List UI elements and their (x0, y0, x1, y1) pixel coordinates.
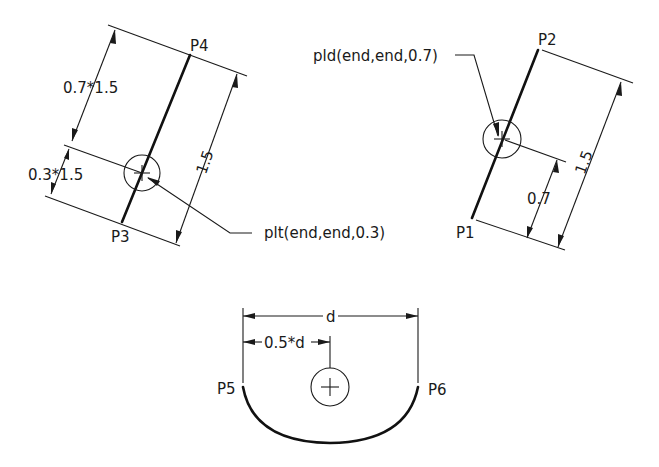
arrowhead (243, 339, 255, 345)
callout-leader (148, 178, 252, 233)
callout-text-pld: pld(end,end,0.7) (313, 47, 438, 65)
dim-label-total: 1.5 (193, 148, 218, 176)
bottom-diagram: P5 P6 d 0.5*d (217, 308, 447, 443)
arrowhead (527, 226, 533, 238)
arrowhead (318, 339, 330, 345)
arrowhead (616, 82, 622, 96)
dim-label-lower: 0.3*1.5 (28, 166, 83, 184)
callout-text-plt: plt(end,end,0.3) (264, 224, 385, 242)
dim-label-partial: 0.7 (527, 190, 551, 208)
dim-label-d: d (326, 308, 336, 326)
extension-line-top (108, 25, 247, 76)
dim-label-total: 1.5 (571, 148, 596, 177)
point-label-p1: P1 (456, 224, 475, 242)
point-label-p4: P4 (190, 37, 209, 55)
point-label-p5: P5 (217, 380, 236, 398)
arrowhead (406, 313, 418, 319)
point-label-p2: P2 (538, 31, 557, 49)
callout-leader (455, 55, 498, 136)
extension-line-top (542, 50, 633, 83)
right-diagram: P2 P1 1.5 0.7 pld(end,end,0.7) (313, 31, 633, 250)
arrowhead (558, 234, 564, 247)
arrowhead (176, 230, 182, 243)
cad-drawing-canvas: P4 P3 0.7*1.5 0.3*1.5 1.5 plt(end,end,0.… (0, 0, 659, 467)
point-label-p6: P6 (428, 381, 447, 399)
dim-label-upper: 0.7*1.5 (63, 79, 118, 97)
arrowhead (110, 30, 116, 44)
point-label-p3: P3 (111, 228, 130, 246)
arrowhead (72, 128, 78, 141)
dim-label-half: 0.5*d (264, 334, 305, 352)
arrowhead (243, 313, 255, 319)
extension-line-bottom (476, 220, 565, 250)
arrowhead (232, 74, 238, 88)
extension-line-mid (505, 140, 566, 162)
line-p3-p4 (122, 55, 190, 222)
arrowhead (493, 122, 499, 137)
